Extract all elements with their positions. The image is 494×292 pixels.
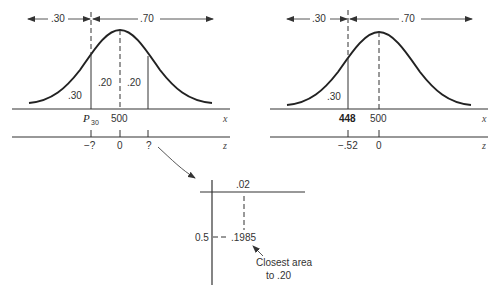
row-header: 0.5 [195, 232, 209, 243]
note-line-2: to .20 [266, 270, 291, 281]
right-top-area-30: .30 [312, 13, 326, 24]
lookup-arrow-icon [158, 147, 195, 178]
x-label-p-subscript: 30 [91, 119, 99, 126]
normal-distribution-diagram: .30 .70 .30 .20 .20 P 30 500 x −? 0 ? z [0, 0, 494, 292]
area-left-tail: .30 [327, 91, 341, 102]
x-label-mean: 500 [111, 113, 128, 124]
area-center-right: .20 [127, 77, 141, 88]
area-center-left: .20 [98, 77, 112, 88]
pointer-arrow-icon [253, 246, 263, 256]
z-axis-name: z [481, 140, 486, 151]
x-axis-name: x [222, 113, 228, 124]
z-label-neg: −? [84, 140, 96, 151]
z-label-zero: 0 [117, 140, 123, 151]
z-label-pos: ? [146, 140, 152, 151]
left-panel: .30 .70 .30 .20 .20 P 30 500 x −? 0 ? z [12, 12, 230, 151]
area-left-tail: .30 [68, 90, 82, 101]
right-panel: .30 .70 .30 448 500 x −.52 0 z [270, 10, 488, 151]
z-label-zero: 0 [376, 140, 382, 151]
z-table-lookup: .02 0.5 .1985 Closest area to .20 [195, 179, 313, 285]
left-top-area-30: .30 [51, 13, 65, 24]
note-line-1: Closest area [256, 257, 313, 268]
left-top-area-70: .70 [140, 13, 154, 24]
z-axis-name: z [222, 140, 227, 151]
column-header: .02 [236, 179, 250, 190]
x-axis-name: x [481, 113, 487, 124]
z-label-neg: −.52 [338, 140, 358, 151]
right-top-area-70: .70 [401, 13, 415, 24]
cell-value: .1985 [231, 232, 256, 243]
x-label-score: 448 [339, 113, 356, 124]
x-label-p: P [82, 112, 90, 124]
x-label-mean: 500 [370, 113, 387, 124]
